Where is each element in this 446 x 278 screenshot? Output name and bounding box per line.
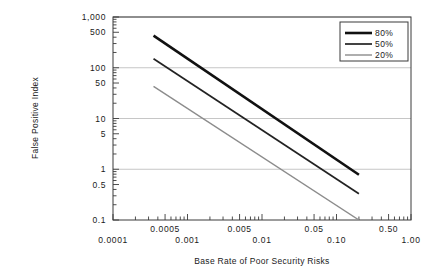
data-series-group: [154, 36, 359, 220]
y-tick-label: 10: [95, 114, 106, 124]
y-axis-title: False Positive Index: [30, 77, 40, 160]
y-tick-label: 1: [101, 164, 106, 174]
y-tick-label: 0.5: [92, 180, 106, 190]
x-tick-label: 0.001: [175, 235, 199, 245]
chart-figure: 1,0005001005010510.50.1 0.00010.00050.00…: [0, 0, 446, 278]
x-tick-label: 0.0005: [150, 224, 180, 234]
x-axis-tick-labels: 0.00010.00050.0010.0050.010.050.100.501.…: [98, 224, 420, 245]
log-log-line-chart: 1,0005001005010510.50.1 0.00010.00050.00…: [0, 0, 446, 278]
legend[interactable]: 80%50%20%: [340, 22, 408, 61]
legend-label-80: 80%: [375, 28, 393, 38]
y-tick-label: 0.1: [92, 215, 106, 225]
y-axis-title-text: False Positive Index: [30, 77, 40, 160]
x-tick-label: 0.01: [253, 235, 272, 245]
y-tick-label: 50: [95, 78, 106, 88]
legend-label-50: 50%: [375, 39, 393, 49]
y-axis-ticks: [113, 17, 119, 220]
x-tick-label: 0.05: [305, 224, 324, 234]
x-tick-label: 0.0001: [98, 235, 128, 245]
x-axis-title-text: Base Rate of Poor Security Risks: [194, 256, 329, 266]
x-tick-label: 0.005: [227, 224, 251, 234]
series-line-50: [154, 59, 359, 194]
y-axis-tick-labels: 1,0005001005010510.50.1: [82, 12, 106, 225]
x-tick-label: 0.10: [327, 235, 346, 245]
y-tick-label: 100: [90, 63, 106, 73]
y-tick-label: 1,000: [82, 12, 106, 22]
x-tick-label: 0.50: [379, 224, 398, 234]
x-tick-label: 1.00: [402, 235, 421, 245]
x-axis-ticks: [113, 214, 411, 220]
x-axis-title: Base Rate of Poor Security Risks: [194, 256, 329, 266]
legend-label-20: 20%: [375, 50, 393, 60]
y-tick-label: 5: [101, 129, 106, 139]
y-tick-label: 500: [90, 27, 106, 37]
